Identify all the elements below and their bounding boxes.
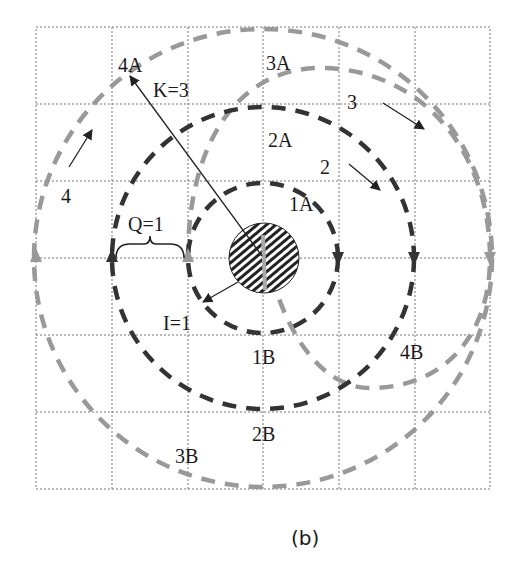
label-Q: Q=1	[128, 213, 164, 235]
label-3B: 3B	[175, 445, 198, 467]
arrow-2	[349, 164, 380, 190]
grey-path-start	[263, 235, 265, 290]
label-4B: 4B	[400, 341, 423, 363]
label-3A: 3A	[266, 52, 291, 74]
arrow-4	[69, 130, 92, 167]
ring1-right-arrow-icon	[332, 252, 344, 266]
label-2B: 2B	[252, 423, 275, 445]
label-I: I=1	[163, 312, 191, 334]
label-2: 2	[320, 156, 330, 178]
ring2-right-arrow-icon	[408, 252, 420, 266]
increment-arrow	[203, 282, 238, 302]
label-2A: 2A	[268, 129, 293, 151]
figure-caption: (b)	[291, 526, 319, 550]
search-pattern-diagram: 4A K=3 3A 3 2A 2 1A 4 Q=1 I=1 1B 4B 2B 3…	[0, 0, 520, 574]
label-3: 3	[347, 91, 357, 113]
arrow-3	[383, 103, 424, 129]
label-1B: 1B	[252, 346, 275, 368]
label-K: K=3	[153, 79, 189, 101]
label-4: 4	[61, 185, 71, 207]
spacing-brace	[116, 236, 184, 258]
label-1A: 1A	[289, 193, 314, 215]
label-4A: 4A	[118, 54, 143, 76]
